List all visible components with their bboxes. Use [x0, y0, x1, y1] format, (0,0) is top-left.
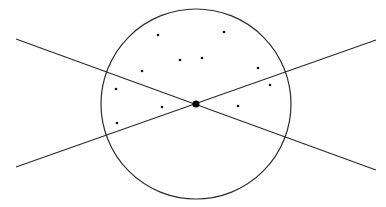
data-point: [223, 31, 226, 34]
data-point: [179, 59, 182, 62]
data-point: [115, 88, 118, 91]
data-point: [269, 84, 272, 87]
data-point: [237, 105, 240, 108]
data-point: [141, 70, 144, 73]
data-point: [257, 67, 260, 70]
diagram-canvas: [0, 0, 386, 207]
data-point: [161, 106, 164, 109]
data-point: [116, 122, 119, 125]
center-point: [193, 101, 200, 108]
data-point: [201, 57, 204, 60]
data-point: [157, 34, 160, 37]
points-group: [115, 31, 272, 125]
